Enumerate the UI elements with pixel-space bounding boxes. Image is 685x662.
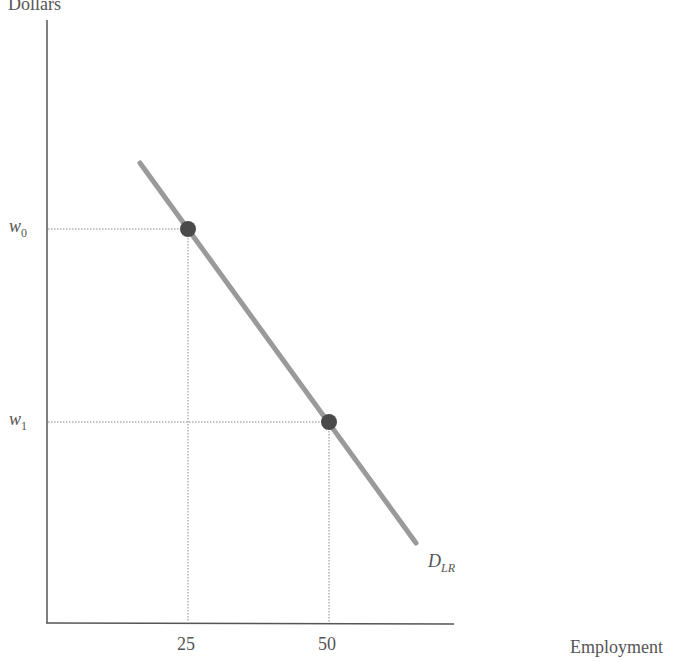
y-tick-w1: w1	[9, 409, 27, 434]
x-tick-50: 50	[318, 634, 336, 655]
point-w1-50	[321, 414, 337, 430]
w1-subscript: 1	[21, 419, 27, 433]
guide-lines	[48, 229, 329, 622]
curve-label-dlr: DLR	[428, 551, 455, 576]
x-tick-25: 25	[177, 634, 195, 655]
y-axis-label: Dollars	[8, 0, 61, 15]
demand-curve-dlr	[140, 163, 416, 543]
x-axis-label: Employment	[570, 637, 663, 658]
y-tick-w0: w0	[9, 216, 27, 241]
point-w0-25	[180, 221, 196, 237]
w0-label: w	[9, 216, 21, 236]
w1-label: w	[9, 409, 21, 429]
chart-canvas	[0, 0, 685, 662]
w0-subscript: 0	[21, 226, 27, 240]
x-axis	[46, 623, 454, 624]
curve-subscript: LR	[441, 561, 455, 575]
curve-label: D	[428, 551, 441, 571]
